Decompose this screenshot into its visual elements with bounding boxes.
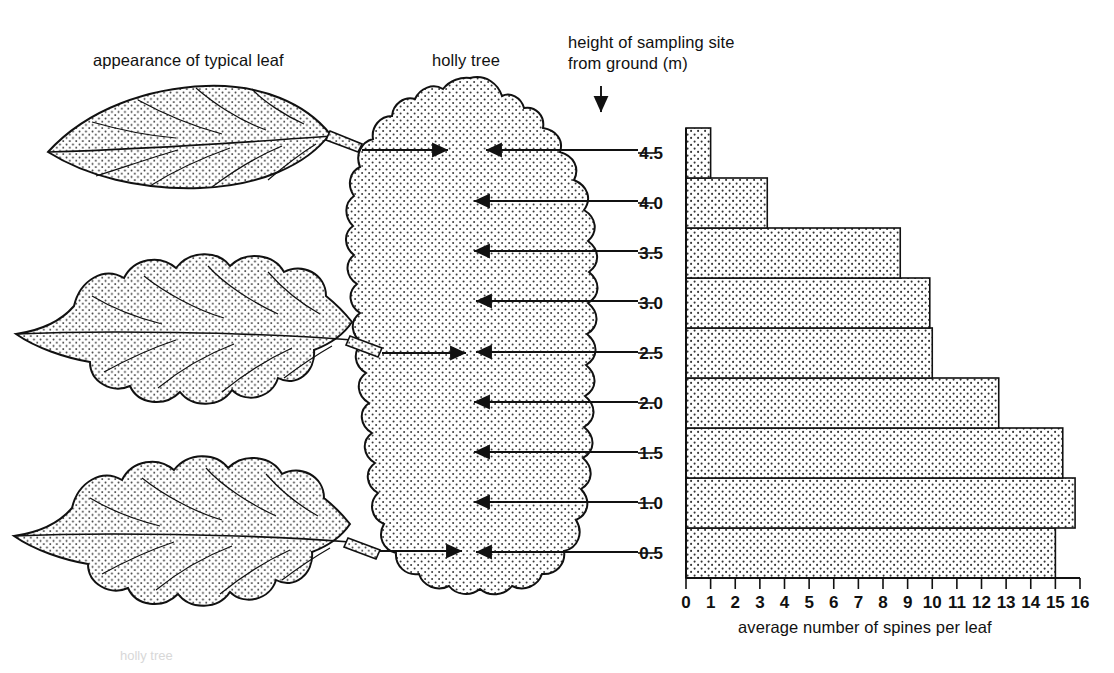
y-tick-label: 1.5 (639, 444, 663, 463)
holly-tree-illustration (346, 77, 598, 594)
y-tick-label: 2.0 (639, 394, 663, 413)
height-note-line1: height of sampling site (568, 32, 734, 53)
leaf-column-heading: appearance of typical leaf (93, 50, 284, 71)
bar-4.5m (686, 128, 711, 178)
x-axis-title: average number of spines per leaf (738, 617, 992, 638)
y-tick-label: 0.5 (639, 544, 663, 563)
x-tick-label: 3 (755, 593, 764, 612)
leaf-illustration-spiny-low (14, 456, 380, 606)
bar-group (686, 128, 1075, 578)
x-tick-label: 2 (731, 593, 740, 612)
leaf-illustration-spiny-mid (16, 254, 382, 404)
tree-column-heading: holly tree (432, 50, 500, 71)
figure-caption-partial: holly tree (120, 648, 173, 663)
bar-3.0m (686, 278, 930, 328)
x-tick-label: 0 (681, 593, 690, 612)
x-tick-label: 15 (1046, 593, 1065, 612)
height-note-line2: from ground (m) (568, 53, 688, 74)
x-tick-label: 16 (1071, 593, 1090, 612)
x-tick-label: 8 (878, 593, 887, 612)
x-tick-group (686, 578, 1080, 589)
bar-1.5m (686, 428, 1063, 478)
x-tick-label: 1 (706, 593, 715, 612)
bar-1.0m (686, 478, 1075, 528)
x-tick-label: 7 (854, 593, 863, 612)
x-tick-label: 12 (972, 593, 991, 612)
y-tick-label: 4.5 (639, 144, 663, 163)
holly-leaf-spine-figure: 0.51.01.52.02.53.03.54.04.5 012345678910… (0, 0, 1114, 673)
bar-2.5m (686, 328, 932, 378)
bar-3.5m (686, 228, 900, 278)
x-tick-label: 10 (923, 593, 942, 612)
y-tick-label: 4.0 (639, 194, 663, 213)
y-tick-labels: 0.51.01.52.02.53.03.54.04.5 (639, 144, 663, 563)
x-tick-label: 13 (997, 593, 1016, 612)
y-tick-label: 3.0 (639, 294, 663, 313)
x-tick-labels: 012345678910111213141516 (681, 593, 1089, 612)
x-tick-label: 5 (804, 593, 813, 612)
bar-4.0m (686, 178, 767, 228)
x-tick-label: 4 (780, 593, 790, 612)
y-tick-label: 1.0 (639, 494, 663, 513)
y-tick-label: 3.5 (639, 244, 663, 263)
x-tick-label: 11 (948, 593, 966, 612)
leaf-illustration-smooth (48, 86, 362, 188)
x-tick-label: 9 (903, 593, 912, 612)
x-tick-label: 6 (829, 593, 838, 612)
bar-2.0m (686, 378, 999, 428)
y-tick-label: 2.5 (639, 344, 663, 363)
bar-0.5m (686, 528, 1055, 578)
x-tick-label: 14 (1021, 593, 1040, 612)
spine-count-bar-chart: 0.51.01.52.02.53.03.54.04.5 012345678910… (638, 128, 1089, 612)
